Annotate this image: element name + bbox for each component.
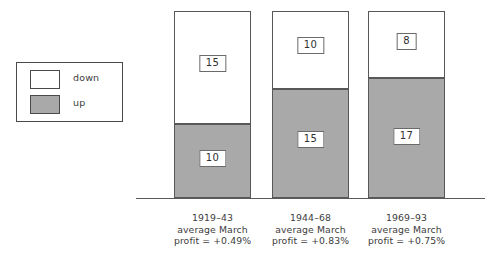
bar-segment-down-1: 15 bbox=[174, 11, 251, 124]
legend-label-down: down bbox=[73, 72, 99, 83]
category-caption-2-line1: 1944–68 bbox=[260, 212, 361, 224]
category-caption-2-line2: average March bbox=[260, 224, 361, 236]
bar-group-2: 10 15 bbox=[272, 11, 349, 198]
bar-segment-down-3: 8 bbox=[368, 11, 445, 78]
bar-group-3: 8 17 bbox=[368, 11, 445, 198]
bar-value-up-1: 10 bbox=[199, 150, 226, 167]
category-caption-3-line1: 1969–93 bbox=[356, 212, 457, 224]
bar-group-1: 15 10 bbox=[174, 11, 251, 198]
legend-swatch-up-icon bbox=[30, 95, 60, 114]
category-caption-1: 1919–43 average March profit = +0.49% bbox=[162, 212, 263, 247]
chart-legend: down up bbox=[16, 62, 123, 122]
category-caption-3-line3: profit = +0.75% bbox=[356, 235, 457, 247]
category-caption-2-line3: profit = +0.83% bbox=[260, 235, 361, 247]
category-caption-2: 1944–68 average March profit = +0.83% bbox=[260, 212, 361, 247]
legend-swatch-down-icon bbox=[30, 70, 60, 89]
bar-segment-up-1: 10 bbox=[174, 124, 251, 198]
bar-value-down-1: 15 bbox=[199, 55, 226, 72]
legend-item-up: up bbox=[17, 94, 122, 116]
category-caption-1-line2: average March bbox=[162, 224, 263, 236]
bar-value-down-3: 8 bbox=[396, 33, 417, 50]
bar-value-up-2: 15 bbox=[297, 131, 324, 148]
bar-segment-up-3: 17 bbox=[368, 78, 445, 198]
legend-item-down: down bbox=[17, 69, 122, 91]
category-caption-1-line3: profit = +0.49% bbox=[162, 235, 263, 247]
chart-canvas: down up 15 10 10 15 8 17 bbox=[0, 0, 504, 263]
bar-value-down-2: 10 bbox=[297, 37, 324, 54]
bar-segment-down-2: 10 bbox=[272, 11, 349, 89]
category-caption-3: 1969–93 average March profit = +0.75% bbox=[356, 212, 457, 247]
category-caption-3-line2: average March bbox=[356, 224, 457, 236]
category-caption-1-line1: 1919–43 bbox=[162, 212, 263, 224]
bar-segment-up-2: 15 bbox=[272, 89, 349, 198]
x-axis-line bbox=[136, 198, 485, 199]
legend-label-up: up bbox=[73, 97, 85, 108]
bar-value-up-3: 17 bbox=[393, 128, 420, 145]
